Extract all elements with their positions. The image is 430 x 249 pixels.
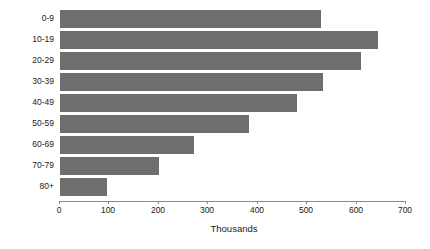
bar	[60, 10, 321, 28]
x-tick-mark	[306, 201, 307, 204]
category-label: 70-79	[0, 161, 54, 170]
x-tick-mark	[405, 201, 406, 204]
bar	[60, 73, 323, 91]
category-label: 80+	[0, 182, 54, 191]
bar	[60, 115, 249, 133]
bar	[60, 94, 297, 112]
x-tick-label: 400	[250, 206, 264, 215]
category-label: 50-59	[0, 119, 54, 128]
x-tick-mark	[158, 201, 159, 204]
x-tick-label: 700	[398, 206, 412, 215]
x-axis-title-text: Thousands	[210, 224, 257, 234]
x-tick-mark	[356, 201, 357, 204]
x-tick-label: 0	[57, 206, 62, 215]
category-label: 20-29	[0, 56, 54, 65]
x-tick-mark	[108, 201, 109, 204]
category-label: 30-39	[0, 77, 54, 86]
category-label: 60-69	[0, 140, 54, 149]
bar	[60, 52, 361, 70]
x-tick-label: 500	[299, 206, 313, 215]
x-tick-label: 300	[200, 206, 214, 215]
x-tick-mark	[207, 201, 208, 204]
category-label: 10-19	[0, 35, 54, 44]
bar	[60, 136, 194, 154]
category-label: 0-9	[0, 14, 54, 23]
bar	[60, 157, 159, 175]
x-tick-mark	[257, 201, 258, 204]
x-tick-label: 600	[349, 206, 363, 215]
x-tick-label: 100	[101, 206, 115, 215]
x-tick-label: 200	[151, 206, 165, 215]
category-label: 40-49	[0, 98, 54, 107]
bar-chart: 0-9 10-19 20-29 30-39 40-49 50-59 60-69 …	[0, 0, 430, 249]
bar	[60, 31, 378, 49]
x-axis-line	[59, 201, 406, 202]
x-axis-title: Thousands	[0, 224, 430, 234]
x-tick-mark	[59, 201, 60, 204]
bar	[60, 178, 107, 196]
